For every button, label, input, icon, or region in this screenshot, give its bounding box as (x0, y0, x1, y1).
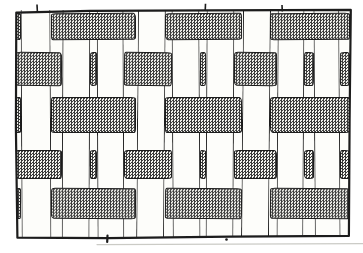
weft-row-1-segment-4 (270, 13, 350, 40)
warp-strip-7 (241, 10, 271, 237)
weft-row-5-segment-1 (16, 188, 21, 219)
warp-strip-4 (136, 10, 166, 237)
weft-row-1-segment-3 (165, 13, 242, 40)
weft-row-5-segment-4 (270, 188, 350, 220)
weft-row-3-segment-2 (51, 97, 136, 133)
weft-row-5-segment-2 (51, 188, 136, 220)
weft-row-4-segment-6 (304, 150, 314, 179)
weft-row-1-segment-1 (16, 13, 21, 40)
weft-row-3-segment-4 (270, 97, 350, 133)
weft-row-4-segment-4 (200, 150, 206, 179)
weft-row-2-segment-1 (16, 52, 62, 86)
weft-row-2-segment-6 (304, 52, 314, 86)
weft-row-1-segment-2 (51, 13, 136, 40)
weft-row-2-segment-5 (234, 52, 277, 86)
weft-row-2-segment-7 (340, 52, 350, 86)
weft-row-3-segment-1 (16, 97, 21, 133)
weft-row-5-segment-3 (165, 188, 242, 220)
weave-layer (16, 10, 350, 237)
weft-row-2-segment-2 (90, 52, 97, 86)
weft-row-4-segment-7 (340, 150, 350, 179)
weft-row-4-segment-1 (16, 150, 62, 179)
weft-row-4-segment-2 (90, 150, 97, 179)
weft-row-2-segment-3 (124, 52, 172, 86)
weft-row-4-segment-3 (124, 150, 172, 179)
weft-row-4-segment-5 (234, 150, 277, 179)
faint-scan-line (97, 244, 363, 245)
weft-row-2-segment-4 (200, 52, 206, 86)
weft-row-3-segment-3 (165, 97, 242, 133)
ink-speck (225, 238, 228, 241)
warp-strip-1 (20, 10, 51, 237)
weave-illustration (0, 0, 363, 253)
